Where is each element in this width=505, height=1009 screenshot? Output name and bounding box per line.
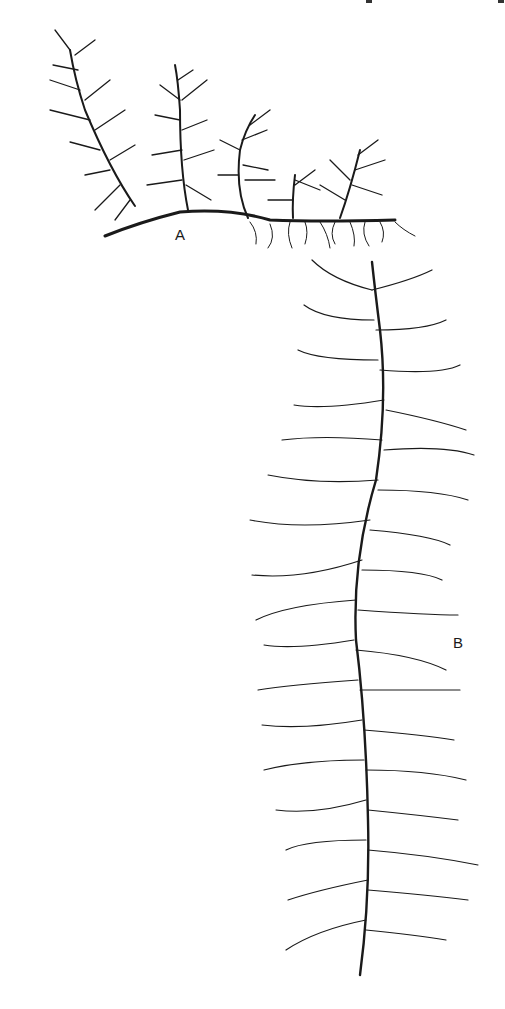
panel-label-a: A <box>175 226 185 243</box>
panel-b-drawing <box>250 260 478 975</box>
plant-drawing <box>0 0 505 1009</box>
clipped-text-fragment <box>498 0 504 3</box>
panel-label-b: B <box>453 634 463 651</box>
panel-a-drawing <box>50 30 415 248</box>
botanical-illustration: A B <box>0 0 505 1009</box>
clipped-text-fragment <box>366 0 372 3</box>
